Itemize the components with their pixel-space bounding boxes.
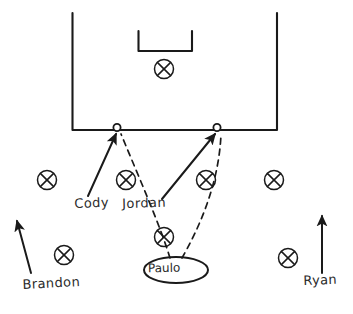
player-label-jordan: Jordan (122, 195, 166, 211)
player-marker-right-wing (265, 171, 284, 190)
goal-box (139, 31, 193, 51)
player-marker-brandon (55, 246, 74, 265)
player-marker-center (155, 228, 174, 247)
player-label-paulo: Paulo (148, 261, 181, 276)
run-arrows (17, 134, 322, 273)
cone-left-icon (113, 124, 120, 131)
drill-diagram-canvas: Cody Jordan Brandon Ryan Paulo (0, 0, 353, 314)
player-label-brandon: Brandon (22, 274, 80, 292)
player-markers (38, 60, 298, 268)
run-arrow-cody (88, 134, 116, 196)
cone-right-icon (213, 124, 220, 131)
pass-path-right-cone (182, 134, 221, 258)
run-arrow-brandon (17, 221, 31, 273)
penalty-box (73, 13, 278, 130)
player-label-cody: Cody (74, 195, 109, 211)
player-marker-goal-area (155, 60, 174, 79)
player-marker-ryan (279, 249, 298, 268)
player-marker-left-wing (38, 171, 57, 190)
player-marker-cody (117, 171, 136, 190)
player-label-ryan: Ryan (303, 272, 337, 288)
